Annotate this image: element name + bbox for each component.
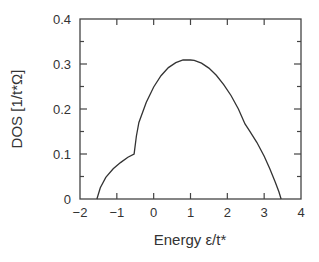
axis-ticks [80, 19, 301, 199]
y-tick-label: 0.3 [53, 57, 71, 72]
y-tick-label: 0.4 [53, 12, 71, 27]
dos-curve [97, 60, 281, 199]
y-axis-label: DOS [1/t*Ω] [8, 70, 25, 149]
x-tick-label: 4 [297, 205, 304, 220]
y-tick-label: 0.1 [53, 147, 71, 162]
y-tick-label: 0.2 [53, 102, 71, 117]
dos-chart: −2−101234 00.10.20.30.4 Energy ε/t* DOS … [0, 0, 319, 262]
x-tick-label: 3 [261, 205, 268, 220]
y-tick-label: 0 [64, 192, 71, 207]
x-tick-label: −1 [109, 205, 124, 220]
plot-frame [80, 19, 301, 199]
x-tick-labels: −2−101234 [73, 205, 305, 220]
x-tick-label: −2 [73, 205, 88, 220]
x-tick-label: 0 [150, 205, 157, 220]
y-tick-labels: 00.10.20.30.4 [53, 12, 71, 207]
x-tick-label: 1 [187, 205, 194, 220]
x-axis-label: Energy ε/t* [154, 231, 227, 248]
x-tick-label: 2 [224, 205, 231, 220]
